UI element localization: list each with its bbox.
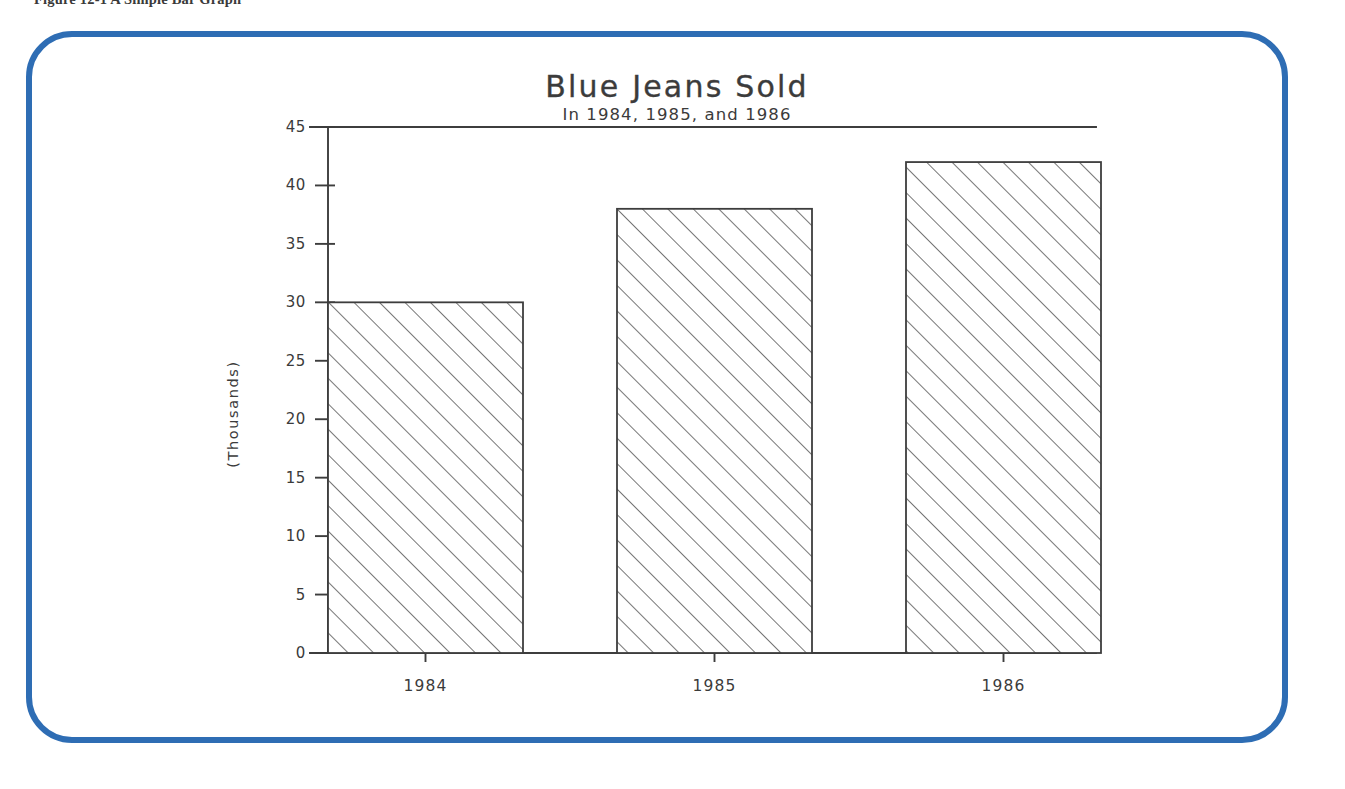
bar-chart: Blue Jeans Sold In 1984, 1985, and 1986 … — [0, 0, 1345, 789]
x-axis-category-labels: 198419851986 — [403, 653, 1025, 695]
x-tick-label: 1986 — [981, 677, 1025, 695]
y-tick-label: 20 — [286, 410, 306, 428]
y-tick-label: 15 — [286, 469, 306, 487]
bar-series — [328, 162, 1101, 653]
y-tick-label: 40 — [286, 176, 306, 194]
y-tick-label: 30 — [286, 293, 306, 311]
y-axis-tick-labels: 051015202530354045 — [286, 118, 306, 662]
y-axis-label: (Thousands) — [225, 360, 241, 467]
bar — [617, 209, 812, 653]
chart-title: Blue Jeans Sold — [545, 69, 809, 104]
bar — [906, 162, 1101, 653]
y-tick-label: 0 — [296, 644, 306, 662]
y-tick-label: 25 — [286, 352, 306, 370]
y-tick-label: 5 — [296, 586, 306, 604]
x-tick-label: 1985 — [692, 677, 736, 695]
chart-subtitle: In 1984, 1985, and 1986 — [562, 105, 791, 124]
bar-chart-canvas: Blue Jeans Sold In 1984, 1985, and 1986 … — [0, 0, 1345, 789]
y-tick-label: 45 — [286, 118, 306, 136]
y-tick-label: 10 — [286, 527, 306, 545]
bar — [328, 302, 523, 653]
y-tick-label: 35 — [286, 235, 306, 253]
x-tick-label: 1984 — [403, 677, 447, 695]
